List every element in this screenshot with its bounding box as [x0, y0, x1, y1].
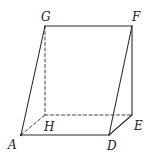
label-E: E [133, 119, 143, 133]
vertex-A-dot [20, 134, 22, 136]
label-F: F [131, 10, 141, 24]
hidden-edges [21, 26, 132, 135]
edge-GA [21, 26, 45, 135]
vertex-labels: A D E H G F [7, 10, 143, 153]
label-G: G [41, 10, 51, 24]
prism-diagram: A D E H G F [0, 0, 146, 155]
label-A: A [7, 138, 17, 152]
visible-edges [21, 26, 132, 135]
label-H: H [43, 120, 55, 134]
label-D: D [106, 139, 117, 153]
